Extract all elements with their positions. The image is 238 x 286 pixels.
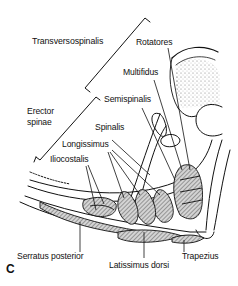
label-iliocostalis: Iliocostalis <box>50 155 88 164</box>
label-multifidus: Multifidus <box>123 68 158 77</box>
spinal-canal <box>196 104 222 136</box>
label-serratus-posterior: Serratus posterior <box>17 252 84 261</box>
vertebral-body <box>172 47 218 58</box>
label-erector-line2: spinae <box>27 118 52 127</box>
transversospinalis-bracket <box>85 18 150 92</box>
trapezius-muscle <box>172 235 204 243</box>
label-semispinalis: Semispinalis <box>104 95 151 104</box>
label-spinalis: Spinalis <box>95 123 124 132</box>
label-transversospinalis: Transversospinalis <box>32 37 103 46</box>
label-latissimus-dorsi: Latissimus dorsi <box>109 261 169 270</box>
longissimus-muscle-2 <box>135 190 155 225</box>
iliocostalis-muscle <box>83 197 117 216</box>
anatomy-figure: Transversospinalis Rotatores Multifidus … <box>0 0 238 286</box>
panel-letter: C <box>6 262 15 276</box>
longissimus-muscle-1 <box>153 190 173 223</box>
multifidus-muscle <box>174 165 203 219</box>
label-trapezius: Trapezius <box>182 252 219 261</box>
leader-longissimus-b <box>110 152 140 195</box>
spinous-process <box>206 140 222 230</box>
label-rotatores: Rotatores <box>136 38 172 47</box>
label-erector-line1: Erector <box>27 107 54 116</box>
longissimus-muscle-3 <box>118 192 138 225</box>
label-longissimus: Longissimus <box>62 140 109 149</box>
